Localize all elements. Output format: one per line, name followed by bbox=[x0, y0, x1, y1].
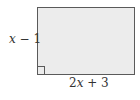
width-label: 2x + 3 bbox=[69, 76, 109, 90]
height-label: x − 1 bbox=[9, 32, 41, 46]
rectangle bbox=[37, 7, 135, 75]
right-angle-marker-icon bbox=[37, 66, 45, 74]
